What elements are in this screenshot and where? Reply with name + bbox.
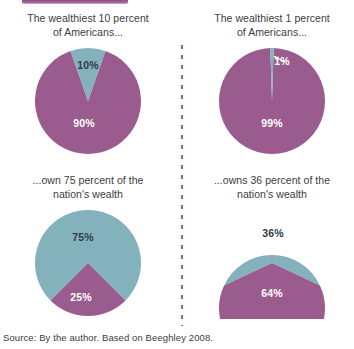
caption-line-1: The wealthiest 10 percent	[27, 12, 149, 24]
panel-caption: ...own 75 percent of the nation's wealth	[2, 174, 174, 201]
caption-line-1: ...owns 36 percent of the	[214, 174, 330, 186]
decorative-header-bar	[22, 0, 128, 4]
caption-line-2: nation's wealth	[237, 188, 307, 200]
pie-svg-1-99	[216, 45, 328, 157]
caption-line-1: ...own 75 percent of the	[33, 174, 144, 186]
pie-label-64-percent: 64%	[261, 287, 283, 299]
caption-line-1: The wealthiest 1 percent	[214, 12, 330, 24]
panel-caption: The wealthiest 10 percent of Americans..…	[2, 12, 174, 39]
panel-caption: The wealthiest 1 percent of Americans...	[186, 12, 354, 39]
panel-owns-36-percent: ...owns 36 percent of the nation's wealt…	[186, 174, 354, 323]
caption-line-2: nation's wealth	[53, 188, 123, 200]
pie-label-75-percent: 75%	[72, 231, 94, 243]
pie-label-36-percent: 36%	[262, 227, 284, 239]
pie-chart-36-64: 36% 64%	[186, 205, 354, 323]
source-note: Source: By the author. Based on Beeghley…	[3, 332, 213, 344]
vertical-dashed-divider	[181, 45, 183, 326]
panel-own-75-percent: ...own 75 percent of the nation's wealth…	[2, 174, 174, 323]
pie-label-1-percent: 1%	[274, 55, 290, 67]
pie-chart-75-25: 75% 25%	[2, 205, 174, 323]
pie-svg-36-64	[216, 207, 328, 319]
pie-label-99-percent: 99%	[261, 117, 283, 129]
pie-label-25-percent: 25%	[70, 291, 92, 303]
pie-label-90-percent: 90%	[73, 117, 95, 129]
caption-line-2: of Americans...	[53, 26, 123, 38]
caption-line-2: of Americans...	[237, 26, 307, 38]
pie-label-10-percent: 10%	[77, 59, 99, 71]
panel-wealthiest-10-percent: The wealthiest 10 percent of Americans..…	[2, 12, 174, 161]
pie-chart-1-99: 1% 99%	[186, 43, 354, 161]
panel-wealthiest-1-percent: The wealthiest 1 percent of Americans...…	[186, 12, 354, 161]
pie-chart-10-90: 10% 90%	[2, 43, 174, 161]
panel-caption: ...owns 36 percent of the nation's wealt…	[186, 174, 354, 201]
